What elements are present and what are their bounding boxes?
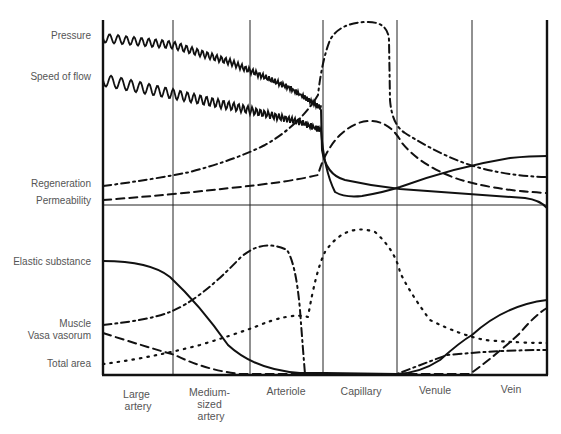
label-vasa-vasorum: Vasa vasorum — [28, 330, 91, 341]
grid — [102, 20, 548, 375]
category-medium-sized-artery: Medium- sized artery — [189, 386, 233, 422]
vessel-properties-chart: Pressure Speed of flow Regeneration Perm… — [0, 0, 561, 434]
category-large-artery: Large artery — [123, 388, 153, 412]
speed-of-flow-curve — [103, 76, 321, 132]
elastic-substance-curve — [103, 261, 547, 374]
upper-panel-curves — [103, 22, 547, 208]
category-arteriole: Arteriole — [266, 385, 305, 397]
vasa-vasorum-curve — [103, 308, 547, 374]
category-vein: Vein — [501, 383, 522, 395]
speed-tail-curve — [321, 130, 547, 197]
label-pressure: Pressure — [51, 30, 91, 41]
muscle-curve — [103, 246, 547, 375]
label-permeability: Permeability — [36, 195, 91, 206]
category-labels: Large artery Medium- sized artery Arteri… — [123, 383, 521, 422]
series-labels: Pressure Speed of flow Regeneration Perm… — [13, 30, 92, 369]
category-venule: Venule — [419, 384, 451, 396]
label-elastic-substance: Elastic substance — [13, 256, 91, 267]
total-area-curve — [103, 230, 547, 365]
label-muscle: Muscle — [59, 318, 91, 329]
lower-panel-curves — [103, 230, 547, 375]
category-capillary: Capillary — [341, 385, 383, 397]
label-regeneration: Regeneration — [31, 178, 91, 189]
label-speed-of-flow: Speed of flow — [30, 71, 91, 82]
label-total-area: Total area — [47, 358, 91, 369]
